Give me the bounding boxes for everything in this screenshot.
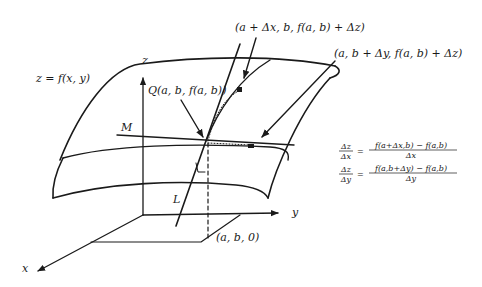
point-Q-label: Q(a, b, f(a, b)) bbox=[148, 84, 226, 97]
point-y-shift-marker bbox=[248, 144, 254, 148]
svg-text:Δx: Δx bbox=[340, 152, 352, 161]
point-y-shift-label: (a, b + Δy, f(a, b) + Δz) bbox=[334, 47, 462, 60]
svg-text:Δy: Δy bbox=[340, 175, 352, 184]
svg-text:f(a+Δx,b) − f(a,b): f(a+Δx,b) − f(a,b) bbox=[374, 141, 447, 150]
line-M-label: M bbox=[120, 121, 133, 134]
z-axis-label: z bbox=[141, 54, 148, 67]
arrow-to-y-shift bbox=[262, 61, 335, 137]
svg-text:Δz: Δz bbox=[340, 165, 352, 174]
svg-text:=: = bbox=[357, 170, 364, 179]
x-axis bbox=[38, 215, 143, 271]
equation-dy: Δz Δy = f(a,b+Δy) − f(a,b) Δy bbox=[339, 164, 457, 184]
base-point-label: (a, b, 0) bbox=[216, 231, 259, 244]
line-L-label: L bbox=[172, 193, 180, 206]
svg-text:Δx: Δx bbox=[405, 151, 417, 160]
point-x-shift-marker bbox=[237, 87, 242, 92]
y-axis bbox=[143, 213, 278, 215]
svg-text:=: = bbox=[357, 147, 364, 156]
point-x-shift-label: (a + Δx, b, f(a, b) + Δz) bbox=[235, 21, 365, 34]
partial-derivatives-diagram: z = f(x, y) z y x Q(a, b, f(a, b)) (a + … bbox=[0, 0, 482, 287]
svg-text:Δy: Δy bbox=[405, 174, 417, 183]
difference-quotient-equations: Δz Δx = f(a+Δx,b) − f(a,b) Δx Δz Δy = f(… bbox=[339, 141, 457, 184]
dotted-delta-x bbox=[208, 90, 240, 141]
surface bbox=[53, 58, 339, 198]
x-axis-label: x bbox=[22, 262, 29, 275]
svg-text:f(a,b+Δy) − f(a,b): f(a,b+Δy) − f(a,b) bbox=[374, 164, 447, 173]
equation-dx: Δz Δx = f(a+Δx,b) − f(a,b) Δx bbox=[339, 141, 457, 161]
surface-label: z = f(x, y) bbox=[35, 72, 90, 85]
arrow-to-Q bbox=[181, 100, 203, 137]
y-axis-label: y bbox=[291, 206, 299, 219]
svg-text:Δz: Δz bbox=[340, 142, 352, 151]
